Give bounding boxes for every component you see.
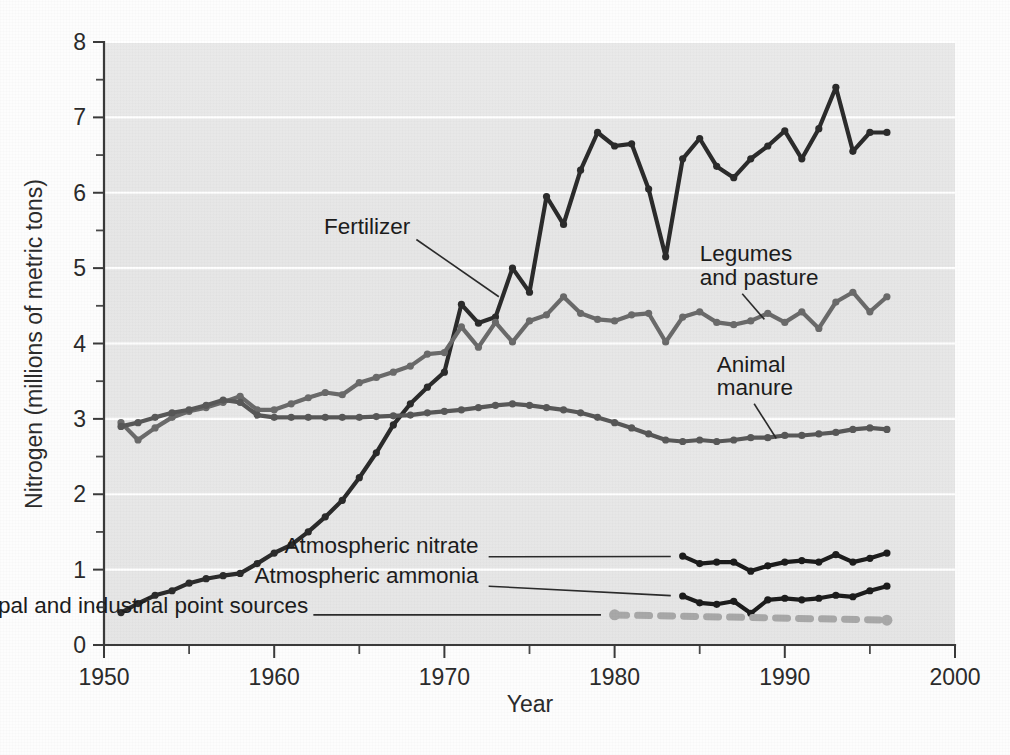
x-tick-label: 1950 bbox=[78, 664, 129, 690]
data-point bbox=[560, 221, 567, 228]
data-point bbox=[271, 414, 278, 421]
data-point bbox=[117, 423, 124, 430]
data-point bbox=[134, 436, 141, 443]
data-point bbox=[764, 142, 771, 149]
data-point bbox=[662, 253, 669, 260]
data-point bbox=[832, 84, 839, 91]
data-point bbox=[526, 402, 533, 409]
data-point bbox=[645, 430, 652, 437]
data-point bbox=[866, 587, 873, 594]
annotation-label: Atmospheric ammonia bbox=[255, 563, 479, 588]
data-point bbox=[764, 310, 771, 317]
data-point bbox=[866, 555, 873, 562]
data-point bbox=[424, 409, 431, 416]
data-point bbox=[696, 436, 703, 443]
data-point bbox=[237, 570, 244, 577]
data-point bbox=[628, 140, 635, 147]
data-point bbox=[747, 568, 754, 575]
data-point bbox=[832, 429, 839, 436]
data-point bbox=[696, 135, 703, 142]
data-point bbox=[611, 419, 618, 426]
data-point bbox=[815, 325, 822, 332]
y-tick-label: 6 bbox=[73, 180, 86, 206]
data-point bbox=[305, 394, 312, 401]
data-point bbox=[866, 308, 873, 315]
data-point bbox=[730, 436, 737, 443]
data-point bbox=[781, 319, 788, 326]
data-point bbox=[645, 185, 652, 192]
x-tick-label: 1990 bbox=[759, 664, 810, 690]
data-point bbox=[458, 301, 465, 308]
x-tick-label: 1960 bbox=[249, 664, 300, 690]
data-point bbox=[356, 474, 363, 481]
data-point bbox=[815, 558, 822, 565]
data-point bbox=[407, 412, 414, 419]
data-point bbox=[526, 289, 533, 296]
y-tick-label: 4 bbox=[73, 331, 86, 357]
data-point bbox=[679, 155, 686, 162]
data-point bbox=[696, 560, 703, 567]
data-point bbox=[475, 404, 482, 411]
y-axis-title: Nitrogen (millions of metric tons) bbox=[21, 179, 47, 509]
data-point bbox=[543, 311, 550, 318]
data-point bbox=[781, 432, 788, 439]
data-point bbox=[832, 592, 839, 599]
data-point bbox=[577, 409, 584, 416]
data-point bbox=[424, 350, 431, 357]
data-point bbox=[526, 317, 533, 324]
data-point bbox=[151, 414, 158, 421]
annotation-label: Atmospheric nitrate bbox=[285, 533, 479, 558]
chart-figure: 012345678 195019601970198019902000 Ferti… bbox=[0, 0, 1010, 755]
data-point bbox=[713, 163, 720, 170]
data-point bbox=[390, 421, 397, 428]
annotation-label: Legumes bbox=[700, 241, 793, 266]
data-point bbox=[730, 174, 737, 181]
data-point bbox=[815, 430, 822, 437]
data-point bbox=[611, 142, 618, 149]
annotation-label: manure bbox=[717, 375, 793, 400]
data-point bbox=[186, 406, 193, 413]
data-point bbox=[883, 293, 890, 300]
y-tick-label: 3 bbox=[73, 406, 86, 432]
data-point bbox=[679, 314, 686, 321]
data-point bbox=[560, 406, 567, 413]
data-point bbox=[305, 414, 312, 421]
data-point bbox=[441, 349, 448, 356]
data-point bbox=[475, 320, 482, 327]
data-point bbox=[356, 379, 363, 386]
x-axis-title: Year bbox=[507, 691, 554, 717]
data-point bbox=[577, 310, 584, 317]
y-tick-label: 0 bbox=[73, 632, 86, 658]
data-point bbox=[611, 317, 618, 324]
data-point bbox=[832, 551, 839, 558]
data-point bbox=[764, 434, 771, 441]
data-point bbox=[628, 311, 635, 318]
data-point bbox=[492, 402, 499, 409]
data-point bbox=[594, 414, 601, 421]
line-chart-svg: 012345678 195019601970198019902000 Ferti… bbox=[0, 0, 1010, 755]
data-point bbox=[356, 414, 363, 421]
data-point bbox=[458, 406, 465, 413]
data-point bbox=[458, 323, 465, 330]
data-point bbox=[594, 316, 601, 323]
data-point bbox=[509, 338, 516, 345]
data-point bbox=[543, 404, 550, 411]
data-point bbox=[492, 319, 499, 326]
data-point bbox=[713, 319, 720, 326]
data-point bbox=[730, 598, 737, 605]
data-point bbox=[832, 298, 839, 305]
data-point bbox=[220, 572, 227, 579]
data-point bbox=[373, 449, 380, 456]
y-tick-label: 1 bbox=[73, 557, 86, 583]
data-point bbox=[271, 549, 278, 556]
data-point bbox=[322, 389, 329, 396]
x-axis-tick-labels: 195019601970198019902000 bbox=[78, 664, 980, 690]
data-point bbox=[373, 374, 380, 381]
data-point bbox=[679, 592, 686, 599]
data-point bbox=[849, 289, 856, 296]
annotation-label: and pasture bbox=[700, 265, 819, 290]
data-point bbox=[441, 408, 448, 415]
data-point bbox=[849, 426, 856, 433]
data-point bbox=[339, 414, 346, 421]
data-point bbox=[151, 424, 158, 431]
